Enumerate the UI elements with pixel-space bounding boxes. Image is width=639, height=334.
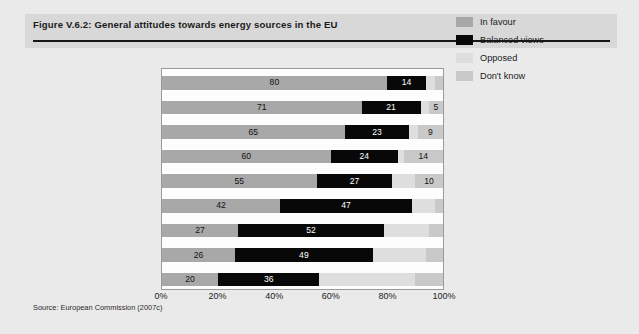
segment-value: 23 — [372, 128, 382, 137]
segment-value: 36 — [264, 275, 274, 284]
segment-value: 27 — [350, 177, 360, 186]
bar-segment-in-favour: 55 — [162, 174, 317, 188]
bar-segment-don-t-know: 10 — [415, 174, 443, 188]
figure-container: Figure V.6.2: General attitudes towards … — [0, 0, 639, 334]
segment-value: 60 — [242, 152, 252, 161]
segment-value: 27 — [195, 226, 205, 235]
legend-label: Opposed — [480, 53, 517, 63]
legend-label: Don't know — [480, 71, 525, 81]
bar-segment-in-favour: 42 — [162, 199, 280, 213]
segment-value: 24 — [360, 152, 370, 161]
bar-segment-in-favour: 60 — [162, 150, 331, 164]
bar-segment-balanced-views: 49 — [235, 248, 373, 262]
legend-swatch-icon — [456, 53, 473, 63]
segment-value: 10 — [424, 177, 434, 186]
segment-value: 42 — [216, 201, 226, 210]
stacked-bar: 552710 — [162, 174, 443, 188]
legend-swatch-icon — [456, 35, 473, 45]
bar-segment-don-t-know — [426, 248, 443, 262]
segment-value: 80 — [270, 78, 280, 87]
bar-segment-opposed — [409, 125, 417, 139]
bar-segment-balanced-views: 24 — [331, 150, 398, 164]
legend-item: Balanced views — [456, 32, 626, 49]
x-axis-ticks: 0%20%40%60%80%100% — [161, 291, 444, 307]
stacked-bar: 8014 — [162, 76, 443, 90]
bar-segment-opposed — [412, 199, 434, 213]
bar-row: Solar energy8014 — [0, 71, 444, 96]
bar-segment-don-t-know — [429, 224, 443, 238]
legend-item: Opposed — [456, 50, 626, 67]
axis-tick-label: 40% — [265, 291, 283, 301]
segment-value: 49 — [299, 251, 309, 260]
segment-value: 26 — [194, 251, 204, 260]
bar-segment-opposed — [392, 174, 414, 188]
bar-segment-balanced-views: 52 — [238, 224, 384, 238]
bar-segment-don-t-know: 14 — [404, 150, 443, 164]
legend-swatch-icon — [456, 71, 473, 81]
axis-tick-label: 0% — [154, 291, 167, 301]
bar-segment-balanced-views: 36 — [218, 273, 319, 287]
bar-segment-don-t-know — [435, 199, 443, 213]
bar-segment-balanced-views: 47 — [280, 199, 412, 213]
bar-row: Nuclear energy2036 — [0, 267, 444, 292]
bar-segment-in-favour: 26 — [162, 248, 235, 262]
segment-value: 52 — [306, 226, 316, 235]
bar-segment-don-t-know — [415, 273, 443, 287]
bar-row: Wind energy71215 — [0, 95, 444, 120]
axis-tick-label: 80% — [378, 291, 396, 301]
axis-tick-label: 100% — [432, 291, 455, 301]
bar-segment-balanced-views: 21 — [362, 101, 421, 115]
stacked-bar: 2752 — [162, 224, 443, 238]
bar-row: Gas4247 — [0, 194, 444, 219]
segment-value: 5 — [434, 103, 439, 112]
bar-segment-opposed — [426, 76, 434, 90]
bar-row: Oil2752 — [0, 218, 444, 243]
bar-segment-don-t-know: 9 — [418, 125, 443, 139]
segment-value: 9 — [428, 128, 433, 137]
bar-row: Hydroelectric energy65239 — [0, 120, 444, 145]
bar-segment-opposed — [421, 101, 429, 115]
bar-row: Coal2649 — [0, 243, 444, 268]
stacked-bar: 2036 — [162, 273, 443, 287]
stacked-bar: 65239 — [162, 125, 443, 139]
axis-tick-label: 20% — [209, 291, 227, 301]
bar-segment-in-favour: 71 — [162, 101, 362, 115]
legend-item: Don't know — [456, 68, 626, 85]
bar-segment-in-favour: 80 — [162, 76, 387, 90]
stacked-bar: 71215 — [162, 101, 443, 115]
bar-segment-don-t-know: 5 — [429, 101, 443, 115]
chart-area: Solar energy8014Wind energy71215Hydroele… — [0, 55, 639, 305]
source-note: Source: European Commission (2007c) — [33, 303, 162, 312]
bar-row: Ocean energy602414 — [0, 144, 444, 169]
axis-tick-label: 60% — [322, 291, 340, 301]
bar-segment-balanced-views: 14 — [387, 76, 426, 90]
segment-value: 65 — [249, 128, 259, 137]
bar-segment-in-favour: 20 — [162, 273, 218, 287]
bar-segment-balanced-views: 27 — [317, 174, 393, 188]
bar-segment-opposed — [373, 248, 426, 262]
segment-value: 14 — [402, 78, 412, 87]
bar-segment-opposed — [319, 273, 415, 287]
segment-value: 14 — [419, 152, 429, 161]
bar-segment-opposed — [384, 224, 429, 238]
bar-row: Biomass energy552710 — [0, 169, 444, 194]
stacked-bar: 4247 — [162, 199, 443, 213]
segment-value: 71 — [257, 103, 267, 112]
legend-label: In favour — [480, 17, 516, 27]
legend-swatch-icon — [456, 17, 473, 27]
bar-segment-in-favour: 65 — [162, 125, 345, 139]
figure-title: Figure V.6.2: General attitudes towards … — [33, 19, 338, 30]
segment-value: 55 — [234, 177, 244, 186]
legend-item: In favour — [456, 14, 626, 31]
segment-value: 21 — [386, 103, 396, 112]
bar-segment-don-t-know — [435, 76, 443, 90]
legend-label: Balanced views — [480, 35, 544, 45]
segment-value: 20 — [185, 275, 195, 284]
stacked-bar: 2649 — [162, 248, 443, 262]
stacked-bar: 602414 — [162, 150, 443, 164]
bar-segment-in-favour: 27 — [162, 224, 238, 238]
bar-segment-balanced-views: 23 — [345, 125, 410, 139]
segment-value: 47 — [341, 201, 351, 210]
chart-legend: In favourBalanced viewsOpposedDon't know — [456, 14, 626, 86]
